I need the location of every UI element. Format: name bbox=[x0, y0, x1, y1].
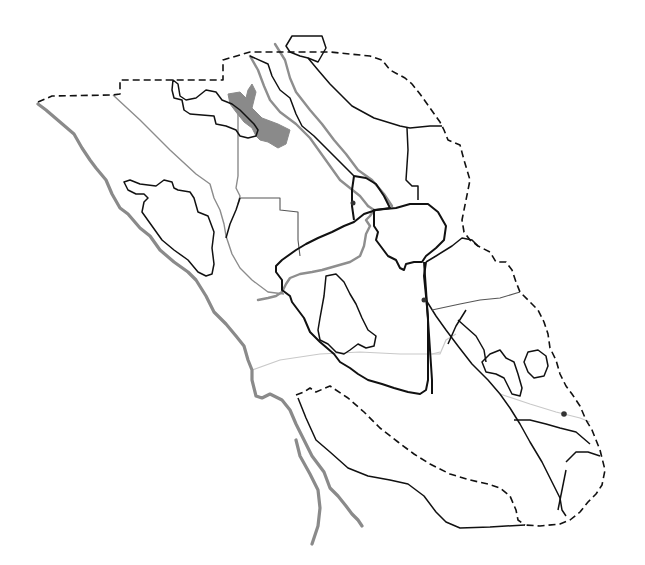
map-canvas[interactable] bbox=[0, 0, 645, 565]
map-background bbox=[0, 0, 645, 565]
point-east-central bbox=[422, 298, 427, 303]
point-southeast bbox=[561, 411, 567, 417]
point-north-central bbox=[351, 201, 356, 206]
region-map bbox=[0, 0, 645, 565]
